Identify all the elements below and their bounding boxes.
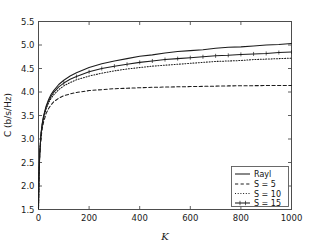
y-tick-label: 3.5 xyxy=(21,111,35,121)
y-tick-label: 4.5 xyxy=(21,64,35,74)
y-tick-label: 1.5 xyxy=(21,205,35,215)
legend-label-rayl: Rayl xyxy=(254,170,271,179)
y-tick-label: 5.5 xyxy=(21,17,35,27)
x-tick-label: 600 xyxy=(182,213,198,223)
figure-background xyxy=(0,0,310,245)
x-tick-label: 0 xyxy=(36,213,41,223)
x-tick-label: 400 xyxy=(132,213,148,223)
capacity-vs-k-line-chart: 02004006008001000 1.52.02.53.03.54.04.55… xyxy=(0,0,310,245)
x-tick-label: 800 xyxy=(233,213,249,223)
y-tick-label: 5.0 xyxy=(21,40,35,50)
legend: Rayl S = 5 S = 10 S = 15 xyxy=(232,167,289,209)
y-tick-label: 2.5 xyxy=(21,158,35,168)
legend-label-s5: S = 5 xyxy=(254,180,276,189)
x-tick-label: 200 xyxy=(81,213,97,223)
y-tick-label: 2.0 xyxy=(21,181,35,191)
y-tick-label: 3.0 xyxy=(21,134,35,144)
x-tick-label: 1000 xyxy=(281,213,303,223)
legend-label-s15: S = 15 xyxy=(254,199,281,208)
y-tick-label: 4.0 xyxy=(21,87,35,97)
y-axis-label: C (b/s/Hz) xyxy=(3,93,13,137)
x-axis-label: K xyxy=(160,231,169,242)
chart-figure: 02004006008001000 1.52.02.53.03.54.04.55… xyxy=(0,0,310,245)
legend-label-s10: S = 10 xyxy=(254,190,281,199)
